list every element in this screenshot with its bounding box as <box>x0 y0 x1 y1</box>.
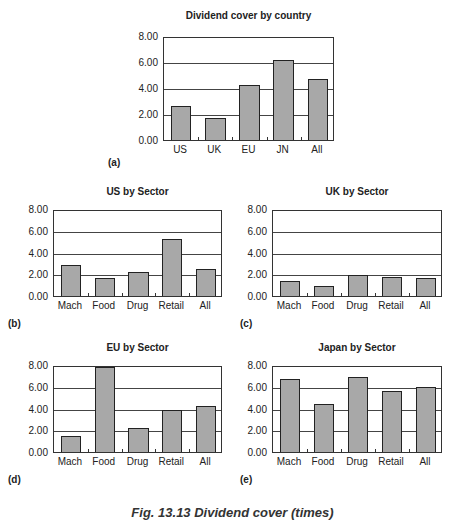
x-tick-mark <box>155 293 156 297</box>
bar-drug <box>128 428 148 452</box>
bar-retail <box>162 410 182 453</box>
x-tick-mark <box>307 449 308 453</box>
gridline <box>273 232 441 233</box>
x-tick-label: All <box>405 456 445 467</box>
plot-area <box>53 366 222 453</box>
y-tick-label: 8.00 <box>227 360 267 371</box>
y-tick-label: 2.00 <box>8 269 48 280</box>
x-tick-mark <box>267 137 268 141</box>
figure-caption: Fig. 13.13 Dividend cover (times) <box>0 505 465 520</box>
panel-label: (c) <box>240 318 252 329</box>
chart-title: US by Sector <box>53 186 222 197</box>
bar-mach <box>280 379 300 452</box>
x-tick-mark <box>122 293 123 297</box>
x-tick-mark <box>341 293 342 297</box>
x-tick-label: All <box>185 456 225 467</box>
panel-label: (a) <box>108 157 120 168</box>
y-tick-label: 4.00 <box>227 248 267 259</box>
chart-title: EU by Sector <box>53 342 222 353</box>
x-tick-mark <box>375 293 376 297</box>
bar-drug <box>348 377 368 452</box>
x-tick-mark <box>189 293 190 297</box>
y-tick-label: 8.00 <box>118 31 158 42</box>
x-tick-label: All <box>405 300 445 311</box>
bar-mach <box>280 281 300 296</box>
y-tick-label: 4.00 <box>227 404 267 415</box>
x-tick-mark <box>155 449 156 453</box>
bar-food <box>314 404 334 452</box>
x-tick-mark <box>232 137 233 141</box>
y-tick-label: 4.00 <box>8 404 48 415</box>
y-tick-label: 6.00 <box>8 382 48 393</box>
x-tick-mark <box>341 449 342 453</box>
y-tick-label: 6.00 <box>227 382 267 393</box>
bar-food <box>95 367 115 452</box>
gridline <box>164 63 333 64</box>
y-tick-label: 4.00 <box>118 83 158 94</box>
y-tick-label: 0.00 <box>227 291 267 302</box>
x-tick-label: All <box>185 300 225 311</box>
gridline <box>54 254 221 255</box>
plot-area <box>163 37 334 141</box>
bar-jn <box>273 60 294 140</box>
y-tick-label: 0.00 <box>8 291 48 302</box>
bar-us <box>171 106 192 140</box>
bar-drug <box>128 272 148 296</box>
x-tick-mark <box>307 293 308 297</box>
x-tick-mark <box>375 449 376 453</box>
bar-retail <box>382 391 402 452</box>
y-tick-label: 0.00 <box>227 447 267 458</box>
gridline <box>54 232 221 233</box>
bar-food <box>314 286 334 296</box>
bar-all <box>416 387 436 452</box>
bar-all <box>308 79 329 140</box>
bar-food <box>95 278 115 296</box>
panel-label: (d) <box>8 474 21 485</box>
x-tick-mark <box>122 449 123 453</box>
bar-retail <box>162 239 182 296</box>
x-tick-mark <box>88 293 89 297</box>
y-tick-label: 6.00 <box>227 226 267 237</box>
x-tick-mark <box>88 449 89 453</box>
x-tick-mark <box>409 449 410 453</box>
y-tick-label: 8.00 <box>227 204 267 215</box>
x-tick-mark <box>198 137 199 141</box>
x-tick-mark <box>189 449 190 453</box>
x-tick-mark <box>409 293 410 297</box>
bar-drug <box>348 275 368 296</box>
gridline <box>273 254 441 255</box>
bar-all <box>416 278 436 296</box>
bar-mach <box>61 436 81 452</box>
plot-area <box>272 366 442 453</box>
y-tick-label: 0.00 <box>118 135 158 146</box>
chart-title: Dividend cover by country <box>163 10 334 21</box>
y-tick-label: 2.00 <box>8 425 48 436</box>
y-tick-label: 4.00 <box>8 248 48 259</box>
panel-label: (e) <box>240 474 252 485</box>
gridline <box>54 388 221 389</box>
y-tick-label: 6.00 <box>118 57 158 68</box>
y-tick-label: 8.00 <box>8 204 48 215</box>
bar-eu <box>239 85 260 140</box>
bar-retail <box>382 277 402 296</box>
y-tick-label: 0.00 <box>8 447 48 458</box>
y-tick-label: 2.00 <box>227 269 267 280</box>
bar-mach <box>61 265 81 296</box>
x-tick-label: All <box>297 144 337 155</box>
bar-uk <box>205 118 226 140</box>
x-tick-mark <box>301 137 302 141</box>
panel-label: (b) <box>8 318 21 329</box>
y-tick-label: 6.00 <box>8 226 48 237</box>
bar-all <box>196 269 216 296</box>
y-tick-label: 2.00 <box>227 425 267 436</box>
bar-all <box>196 406 216 452</box>
y-tick-label: 2.00 <box>118 109 158 120</box>
y-tick-label: 8.00 <box>8 360 48 371</box>
plot-area <box>53 210 222 297</box>
chart-title: UK by Sector <box>272 186 442 197</box>
plot-area <box>272 210 442 297</box>
chart-title: Japan by Sector <box>272 342 442 353</box>
